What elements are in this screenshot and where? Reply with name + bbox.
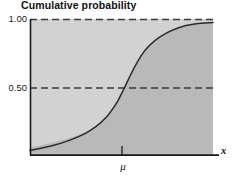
cumulative-probability-chart: Cumulative probability 1.00 0.50 xyxy=(0,0,234,178)
plot-area xyxy=(0,0,234,178)
x-axis-label: x xyxy=(221,145,226,156)
x-axis-tick-label-mu: μ xyxy=(115,160,131,172)
